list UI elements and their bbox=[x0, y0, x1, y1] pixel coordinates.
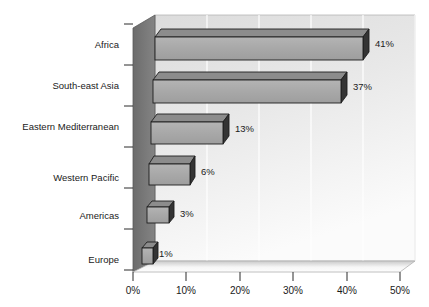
category-label-americas: Americas bbox=[79, 210, 119, 221]
category-label-western-pacific: Western Pacific bbox=[53, 172, 119, 183]
value-label-africa: 41% bbox=[375, 38, 395, 49]
bar-americas[interactable] bbox=[147, 201, 174, 223]
x-tick-label-0: 0% bbox=[126, 285, 141, 296]
chart-container: 41% 37% 13% 6% 3% 1% Africa South-east A… bbox=[0, 0, 429, 307]
bar-front-face bbox=[142, 248, 153, 264]
category-label-europe: Europe bbox=[88, 254, 119, 265]
y-axis-ticks bbox=[124, 24, 133, 270]
bar-south-east-asia[interactable] bbox=[153, 72, 347, 103]
x-axis-ticks bbox=[133, 272, 400, 281]
bar-front-face bbox=[147, 207, 169, 223]
bar-top-face bbox=[149, 156, 195, 164]
bar-front-face bbox=[155, 37, 363, 60]
bar-front-face bbox=[153, 80, 341, 103]
x-tick-label-50: 50% bbox=[390, 285, 410, 296]
x-tick-label-20: 20% bbox=[230, 285, 250, 296]
bar-top-face bbox=[151, 114, 229, 122]
bar-front-face bbox=[149, 164, 190, 185]
bar-top-face bbox=[155, 29, 369, 37]
value-label-south-east-asia: 37% bbox=[353, 81, 373, 92]
bar-africa[interactable] bbox=[155, 29, 369, 60]
bar-front-face bbox=[151, 122, 223, 144]
bar-chart-3d: 41% 37% 13% 6% 3% 1% Africa South-east A… bbox=[0, 0, 429, 307]
bar-europe[interactable] bbox=[142, 242, 158, 264]
category-label-africa: Africa bbox=[95, 39, 120, 50]
value-label-western-pacific: 6% bbox=[201, 166, 215, 177]
floor bbox=[133, 261, 415, 272]
x-tick-label-10: 10% bbox=[176, 285, 196, 296]
category-label-eastern-mediterranean: Eastern Mediterranean bbox=[22, 121, 119, 132]
value-label-eastern-mediterranean: 13% bbox=[235, 123, 255, 134]
category-label-south-east-asia: South-east Asia bbox=[52, 80, 119, 91]
x-tick-label-30: 30% bbox=[283, 285, 303, 296]
bar-top-face bbox=[153, 72, 347, 80]
value-label-europe: 1% bbox=[159, 248, 173, 259]
bar-eastern-mediterranean[interactable] bbox=[151, 114, 229, 144]
value-label-americas: 3% bbox=[180, 208, 194, 219]
x-tick-label-40: 40% bbox=[337, 285, 357, 296]
x-axis: 0% 10% 20% 30% 40% 50% bbox=[126, 272, 410, 296]
bar-western-pacific[interactable] bbox=[149, 156, 195, 185]
